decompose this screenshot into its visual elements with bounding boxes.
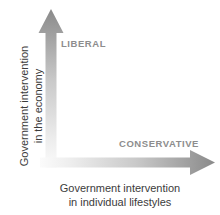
- y-axis-title-line-1: Government intervention: [17, 31, 31, 181]
- pole-label-conservative: CONSERVATIVE: [119, 139, 199, 149]
- y-axis-title: Government intervention in the economy: [17, 31, 45, 181]
- political-spectrum-diagram: LIBERAL CONSERVATIVE Government interven…: [0, 0, 220, 215]
- horizontal-axis-arrow: [40, 150, 215, 175]
- y-axis-title-line-2: in the economy: [31, 31, 45, 181]
- x-axis-title-line-2: in individual lifestyles: [35, 195, 205, 209]
- pole-label-liberal: LIBERAL: [61, 39, 106, 49]
- x-axis-title: Government intervention in individual li…: [35, 181, 205, 209]
- x-axis-title-line-1: Government intervention: [35, 181, 205, 195]
